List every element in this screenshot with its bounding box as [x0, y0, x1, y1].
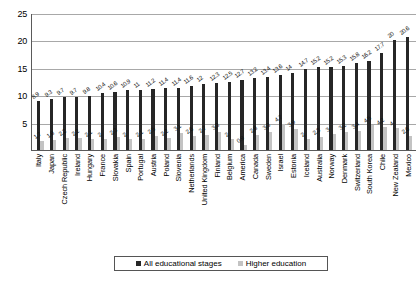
x-axis-category-label: Norway: [329, 154, 336, 178]
legend-swatch-icon: [136, 261, 141, 266]
x-axis-category-label: New Zealand: [392, 154, 399, 196]
x-axis-category-label: Japan: [48, 154, 55, 174]
x-axis-category-label: Ireland: [74, 154, 81, 176]
bar-higher-education: [307, 139, 310, 150]
x-axis-category-label: Iceland: [303, 154, 310, 177]
bar-group: 15.22.3: [313, 14, 326, 150]
x-axis-label-cell: New Zealand: [390, 153, 403, 235]
x-axis-label-cell: Slovenia: [173, 153, 186, 235]
x-axis-category-label: Hungary: [87, 154, 94, 181]
x-axis-category-label: Switzerland: [354, 154, 361, 191]
bar-all-educational-stages: [304, 69, 307, 150]
x-axis-label-cell: Netherlands: [186, 153, 199, 235]
chart-legend: All educational stages Higher education: [114, 256, 328, 271]
x-axis-category-label: Israel: [278, 154, 285, 171]
x-axis-category-label: South Korea: [367, 154, 374, 194]
bar-value-label: 4.2: [375, 117, 384, 126]
bar-value-label: 2.2: [58, 128, 67, 137]
bar-higher-education: [117, 137, 120, 150]
x-axis-category-label: Canada: [252, 154, 259, 179]
x-axis-label-cell: Belgium: [224, 153, 237, 235]
bar-value-label: 2.2: [160, 128, 169, 137]
x-axis-category-label: Slovakia: [112, 154, 119, 181]
y-axis-tick-label: 25: [3, 10, 27, 19]
bar-higher-education: [256, 135, 259, 150]
bar-higher-education: [180, 133, 183, 150]
bar-value-label: 3.3: [261, 122, 270, 131]
x-axis-label-cell: Estonia: [288, 153, 301, 235]
x-axis-category-labels: ItalyJapanCzech RepublicIrelandHungaryFr…: [32, 153, 416, 235]
bar-value-label: 4.7: [274, 114, 283, 123]
bar-group: 9.72.2: [59, 14, 72, 150]
bar-group: 16.24.5: [364, 14, 377, 150]
x-axis-category-label: Czech Republic: [61, 154, 68, 204]
x-axis-label-cell: Spain: [122, 153, 135, 235]
x-axis-label-cell: Iceland: [300, 153, 313, 235]
bar-group: 9.31.8: [47, 14, 60, 150]
bar-higher-education: [218, 132, 221, 150]
x-axis-label-cell: Finland: [211, 153, 224, 235]
y-axis-tick-label: 15: [3, 65, 27, 74]
x-axis-label-cell: Mexico: [402, 153, 415, 235]
x-axis-category-label: United Kingdom: [201, 154, 208, 205]
bar-value-label: 2.6: [401, 126, 410, 135]
bar-series-container: 8.91.79.31.89.72.29.72.29.82.110.4210.62…: [33, 14, 416, 150]
x-axis-category-label: Belgium: [227, 154, 234, 180]
x-axis-category-label: Poland: [163, 154, 170, 176]
x-axis-category-label: Sweden: [265, 154, 272, 180]
x-axis-label-cell: Hungary: [84, 153, 97, 235]
bar-group: 13.64.7: [275, 14, 288, 150]
x-axis-category-label: Portugal: [138, 154, 145, 181]
bar-higher-education: [282, 124, 285, 150]
bar-group: 9.82.1: [85, 14, 98, 150]
bar-value-label: 3.2: [337, 122, 346, 131]
legend-label: All educational stages: [144, 260, 222, 268]
bar-higher-education: [409, 136, 412, 150]
x-axis-label-cell: Canada: [249, 153, 262, 235]
bar-value-label: 2.1: [83, 128, 92, 137]
bar-higher-education: [294, 129, 297, 150]
bar-value-label: 3.4: [350, 121, 359, 130]
bar-group: 12.52: [225, 14, 238, 150]
bar-value-label: 0.9: [236, 135, 245, 144]
bar-value-label: 1.7: [32, 131, 41, 140]
bar-higher-education: [167, 138, 170, 150]
bar-value-label: 2.1: [134, 128, 143, 137]
bar-higher-education: [396, 128, 399, 150]
x-axis-label-cell: Italy: [33, 153, 46, 235]
bar-group: 15.33.2: [339, 14, 352, 150]
x-axis-label-cell: America: [237, 153, 250, 235]
x-axis-label-cell: Austria: [148, 153, 161, 235]
legend-item-higher-education: Higher education: [238, 260, 306, 268]
bar-higher-education: [40, 141, 43, 150]
bar-higher-education: [129, 139, 132, 150]
x-axis-category-label: Mexico: [405, 154, 412, 177]
bar-higher-education: [142, 139, 145, 151]
x-axis-label-cell: Denmark: [339, 153, 352, 235]
x-axis-label-cell: South Korea: [364, 153, 377, 235]
x-axis-label-cell: Czech Republic: [58, 153, 71, 235]
legend-swatch-icon: [238, 261, 243, 266]
x-axis-label-cell: Australia: [313, 153, 326, 235]
bar-value-label: 8.9: [30, 91, 39, 100]
x-axis-label-cell: Poland: [160, 153, 173, 235]
bar-group: 15.23: [326, 14, 339, 150]
bar-higher-education: [104, 139, 107, 150]
bar-higher-education: [244, 145, 247, 150]
bar-value-label: 2.2: [71, 128, 80, 137]
x-axis-category-label: France: [99, 154, 106, 176]
bar-value-label: 2.8: [248, 125, 257, 134]
bar-higher-education: [66, 138, 69, 150]
bar-value-label: 3.1: [172, 123, 181, 132]
x-axis-label-cell: United Kingdom: [199, 153, 212, 235]
y-axis-tick-label: 10: [3, 92, 27, 101]
bar-higher-education: [358, 131, 361, 150]
x-axis-category-label: Slovenia: [176, 154, 183, 182]
x-axis-label-cell: Israel: [275, 153, 288, 235]
bar-value-label: 1.8: [45, 130, 54, 139]
x-axis-label-cell: France: [97, 153, 110, 235]
bar-value-label: 2.6: [185, 126, 194, 135]
bar-higher-education: [205, 135, 208, 150]
x-axis-category-label: Chile: [379, 154, 386, 170]
y-axis-tick-label: 20: [3, 37, 27, 46]
